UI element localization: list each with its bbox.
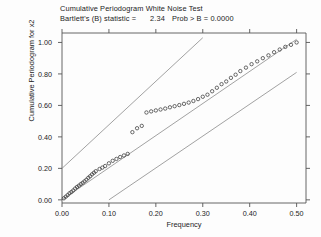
data-point: [107, 162, 110, 165]
data-points: [62, 41, 298, 200]
45-degree-line: [62, 39, 297, 200]
data-point: [234, 73, 237, 76]
x-tick-label: 0.00: [47, 209, 77, 218]
data-point: [272, 51, 275, 54]
data-point: [239, 69, 242, 72]
data-point: [103, 164, 106, 167]
data-point: [168, 106, 171, 109]
data-point: [187, 101, 190, 104]
x-tick-label: 0.10: [94, 209, 124, 218]
data-point: [118, 155, 121, 158]
data-point: [229, 76, 232, 79]
y-tick-label: 0.80: [22, 70, 52, 79]
data-point: [131, 130, 134, 133]
data-point: [164, 107, 167, 110]
reference-lines: [62, 38, 297, 200]
y-tick-label: 0.60: [22, 101, 52, 110]
y-tick-label: 0.40: [22, 133, 52, 142]
data-point: [192, 99, 195, 102]
data-point: [261, 56, 264, 59]
data-point: [215, 86, 218, 89]
data-point: [225, 80, 228, 83]
data-point: [182, 102, 185, 105]
data-point: [111, 159, 114, 162]
data-point: [159, 108, 162, 111]
data-point: [267, 54, 270, 57]
x-tick-label: 0.40: [235, 209, 265, 218]
data-point: [140, 124, 143, 127]
x-tick-label: 0.50: [282, 209, 312, 218]
axes-group: [62, 33, 306, 203]
data-point: [196, 97, 199, 100]
y-tick-label: 1.00: [22, 38, 52, 47]
data-point: [256, 60, 259, 63]
data-point: [244, 66, 247, 69]
data-point: [201, 95, 204, 98]
data-point: [206, 93, 209, 96]
data-point: [210, 90, 213, 93]
lower-confidence-band: [109, 72, 297, 200]
data-point: [154, 109, 157, 112]
upper-confidence-band: [62, 38, 203, 169]
chart-figure: Cumulative Periodogram White Noise Test …: [0, 0, 321, 237]
data-point: [135, 127, 138, 130]
x-tick-label: 0.30: [188, 209, 218, 218]
data-point: [149, 110, 152, 113]
y-tick-label: 0.20: [22, 164, 52, 173]
data-point: [220, 82, 223, 85]
data-point: [173, 104, 176, 107]
data-point: [178, 103, 181, 106]
data-point: [295, 41, 298, 44]
data-point: [145, 111, 148, 114]
data-point: [122, 154, 125, 157]
data-point: [115, 157, 118, 160]
data-point: [250, 62, 253, 65]
y-tick-label: 0.00: [22, 196, 52, 205]
x-tick-label: 0.20: [141, 209, 171, 218]
